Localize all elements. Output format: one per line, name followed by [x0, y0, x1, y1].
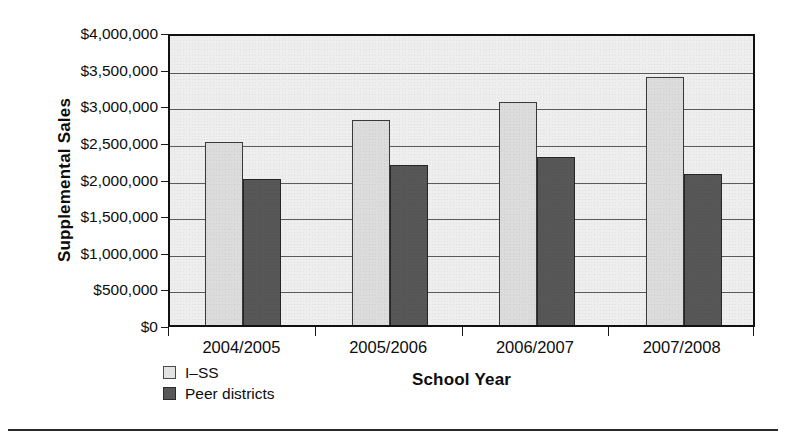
x-tick-label: 2006/2007: [462, 338, 609, 357]
plot-area: [168, 34, 755, 327]
legend-item: I–SS: [163, 362, 275, 383]
gridline: [170, 73, 753, 74]
legend-label: Peer districts: [185, 385, 275, 403]
x-tick-label: 2007/2008: [608, 338, 755, 357]
y-tick-label: $3,500,000: [46, 63, 158, 79]
bar-i-ss: [352, 120, 390, 325]
legend-item: Peer districts: [163, 383, 275, 404]
y-tick-label: $1,000,000: [46, 246, 158, 262]
x-tick-mark: [608, 327, 609, 336]
bar-peer-districts: [390, 165, 428, 325]
legend-label: I–SS: [185, 364, 219, 382]
y-tick-label: $0: [46, 319, 158, 335]
bar-chart-figure: Supplemental Sales $4,000,000$3,500,000$…: [0, 0, 786, 447]
y-axis-tick-labels: $4,000,000$3,500,000$3,000,000$2,500,000…: [40, 0, 158, 447]
x-tick-mark: [462, 327, 463, 336]
x-tick-label: 2004/2005: [168, 338, 315, 357]
x-tick-mark: [753, 327, 754, 336]
bar-i-ss: [499, 102, 537, 325]
bottom-divider: [8, 429, 778, 431]
plot-canvas: [170, 36, 753, 325]
y-tick-label: $2,000,000: [46, 173, 158, 189]
y-tick-label: $2,500,000: [46, 136, 158, 152]
y-tick-label: $1,500,000: [46, 209, 158, 225]
bar-i-ss: [646, 77, 684, 325]
x-tick-label: 2005/2006: [315, 338, 462, 357]
legend-swatch-light: [163, 366, 176, 379]
legend-swatch-dark: [163, 387, 176, 400]
x-tick-mark: [168, 327, 169, 336]
bar-peer-districts: [243, 179, 281, 325]
chart-legend: I–SSPeer districts: [163, 362, 275, 404]
bar-peer-districts: [537, 157, 575, 325]
y-tick-label: $4,000,000: [46, 26, 158, 42]
x-tick-mark: [315, 327, 316, 336]
x-axis-tick-marks: [168, 327, 755, 337]
bar-peer-districts: [684, 174, 722, 325]
bar-i-ss: [205, 142, 243, 325]
y-tick-label: $500,000: [46, 282, 158, 298]
y-tick-label: $3,000,000: [46, 99, 158, 115]
